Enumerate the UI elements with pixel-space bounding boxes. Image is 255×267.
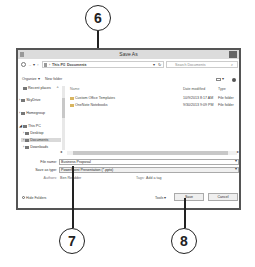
desktop-icon — [25, 132, 29, 135]
back-arrow-icon[interactable] — [21, 62, 26, 67]
cancel-button[interactable]: Cancel — [208, 193, 238, 201]
breadcrumb-sep-3: › — [85, 63, 86, 67]
nav-item-homegroup[interactable]: › Homegroup — [19, 111, 45, 115]
folder-icon — [70, 104, 74, 107]
table-row[interactable]: Custom Office Templates 10/9/2013 8:17 A… — [68, 96, 238, 101]
documents-icon — [25, 139, 29, 142]
breadcrumb-documents[interactable]: Documents — [67, 63, 87, 67]
file-name-label: File name: — [28, 160, 57, 164]
homegroup-icon — [21, 112, 25, 115]
scroll-left-icon[interactable]: ◂ — [60, 150, 62, 154]
downloads-icon — [25, 146, 29, 149]
save-type-dropdown-icon[interactable]: ▾ — [235, 167, 237, 171]
nav-item-documents[interactable]: › Documents — [21, 138, 61, 142]
nav-label: Desktop — [30, 131, 43, 135]
address-dropdown-icon[interactable]: ▾ — [153, 63, 155, 67]
nav-item-downloads[interactable]: › Downloads — [23, 145, 48, 149]
callout-6-number: 6 — [94, 10, 102, 26]
callout-6: 6 — [85, 5, 111, 31]
toolbar: Organize ▾ New folder ▾ — [18, 76, 239, 83]
save-type-label: Save as type: — [24, 168, 57, 172]
file-type: File folder — [218, 103, 234, 107]
file-name-text: OneNote Notebooks — [75, 103, 108, 107]
title-bar: Save As — [18, 50, 239, 59]
save-button[interactable]: Save — [174, 193, 204, 201]
save-type-select[interactable]: PowerPoint Presentation (*.pptx) — [59, 167, 239, 173]
nav-item-this-pc[interactable]: ◢ This PC — [19, 124, 41, 128]
computer-icon — [44, 63, 47, 67]
file-list: Name Date modified Type Custom Office Te… — [68, 86, 238, 148]
callout-8: 8 — [171, 228, 197, 254]
callout-8-number: 8 — [180, 233, 188, 249]
help-icon[interactable] — [232, 78, 236, 82]
file-name-dropdown-icon[interactable]: ▾ — [235, 159, 237, 163]
tags-label: Tags: — [136, 176, 145, 180]
file-name: OneNote Notebooks — [70, 103, 108, 107]
breadcrumb-sep-2: › — [64, 63, 65, 67]
organize-button[interactable]: Organize ▾ — [22, 77, 40, 81]
column-header-name[interactable]: Name — [70, 87, 80, 91]
horizontal-scrollbar[interactable] — [67, 151, 237, 155]
cloud-icon — [21, 99, 25, 102]
nav-scrollbar[interactable] — [62, 86, 65, 150]
tools-button[interactable]: Tools ▾ — [155, 196, 166, 200]
table-row[interactable]: OneNote Notebooks 9/30/2013 9:09 PM File… — [68, 103, 238, 108]
up-arrow-icon[interactable]: ↑ — [37, 63, 39, 67]
scroll-right-icon[interactable]: ▸ — [237, 150, 239, 154]
view-options-icon[interactable] — [216, 78, 221, 81]
recent-places-icon — [23, 87, 27, 90]
nav-scroll-thumb[interactable] — [62, 98, 65, 118]
file-type: File folder — [218, 96, 234, 100]
save-type-value: PowerPoint Presentation (*.pptx) — [61, 168, 113, 172]
file-date: 9/30/2013 9:09 PM — [183, 103, 213, 107]
authors-label: Authors: — [32, 176, 57, 180]
callout-7-number: 7 — [68, 233, 76, 249]
nav-item-skydrive[interactable]: › SkyDrive — [19, 98, 41, 102]
folder-icon — [70, 97, 74, 100]
close-button[interactable] — [229, 51, 237, 58]
nav-label: SkyDrive — [26, 98, 40, 102]
hide-folders-label: Hide Folders — [26, 196, 46, 200]
dialog-title: Save As — [119, 51, 137, 57]
search-icon: ⌕ — [231, 63, 233, 67]
navigation-pane: Recent places^ › SkyDrive › Homegroup ◢ … — [18, 86, 63, 148]
nav-label: Homegroup — [26, 111, 45, 115]
nav-item-desktop[interactable]: › Desktop — [23, 131, 43, 135]
search-placeholder: Search Documents — [175, 63, 206, 67]
file-date: 10/9/2013 8:17 AM — [183, 96, 213, 100]
callout-7: 7 — [59, 228, 85, 254]
callout-8-line — [184, 198, 186, 228]
save-as-dialog: Save As → ▾ ↑ › This PC › Documents › ▾ … — [16, 48, 241, 210]
recent-dropdown-icon[interactable]: ▾ — [33, 63, 35, 67]
address-bar[interactable]: › This PC › Documents › ▾ ↻ — [42, 61, 164, 68]
nav-label: Downloads — [30, 145, 48, 149]
column-header-date[interactable]: Date modified — [183, 87, 205, 91]
forward-arrow-icon[interactable]: → — [28, 63, 32, 67]
app-icon — [20, 52, 24, 57]
authors-value[interactable]: Ben Readder — [60, 176, 81, 180]
callout-7-line — [72, 166, 74, 228]
address-row: → ▾ ↑ › This PC › Documents › ▾ ↻ Search… — [18, 61, 239, 69]
column-header-type[interactable]: Type — [218, 87, 226, 91]
collapse-circle-icon — [22, 196, 25, 199]
refresh-icon[interactable]: ↻ — [158, 63, 161, 67]
nav-label: This PC — [28, 124, 41, 128]
file-name-value: Business Proposal — [61, 160, 91, 164]
file-name: Custom Office Templates — [70, 96, 115, 100]
breadcrumb-sep-1: › — [49, 63, 50, 67]
nav-item-recent-places[interactable]: Recent places^ — [23, 86, 58, 90]
horizontal-scroll-thumb[interactable] — [73, 151, 228, 155]
nav-label: Documents — [30, 138, 48, 142]
collapse-icon[interactable]: ^ — [57, 86, 59, 90]
nav-label: Recent places — [28, 86, 51, 90]
hide-folders-toggle[interactable]: Hide Folders — [22, 196, 46, 200]
computer-icon — [23, 125, 27, 128]
new-folder-button[interactable]: New folder — [45, 77, 62, 81]
search-box[interactable]: Search Documents ⌕ — [166, 61, 238, 68]
view-dropdown-icon[interactable]: ▾ — [222, 77, 224, 81]
file-name-text: Custom Office Templates — [75, 96, 115, 100]
tags-value[interactable]: Add a tag — [146, 176, 161, 180]
file-name-input[interactable]: Business Proposal — [59, 159, 239, 165]
